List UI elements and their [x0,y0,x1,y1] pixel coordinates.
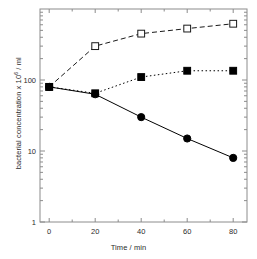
y-tick-label: 10 [28,147,36,156]
data-point-filled-circle [46,83,53,90]
y-tick-label: 1 [32,218,36,227]
y-axis-title-suffix: / ml [14,57,23,72]
data-point-filled-circle [230,154,237,161]
data-point-open-square [230,20,237,27]
data-point-filled-square [230,67,237,74]
data-point-filled-square [138,74,145,81]
chart-canvas: 020406080110100 [0,0,257,259]
data-point-filled-circle [92,91,99,98]
x-tick-label: 40 [137,227,145,236]
x-axis-title: Time / min [0,243,257,252]
data-point-open-square [184,25,191,32]
y-axis-title: bacterial concentration x 106 / ml [13,43,24,183]
y-tick-label: 100 [23,76,36,85]
series-line-filled-circles-solid [49,87,233,158]
figure-container: 020406080110100 bacterial concentration … [0,0,257,259]
x-tick-label: 0 [47,227,51,236]
x-tick-label: 80 [229,227,237,236]
data-point-open-square [92,43,99,50]
data-point-filled-circle [138,114,145,121]
x-tick-label: 60 [183,227,191,236]
y-axis-title-exponent: 6 [13,72,19,75]
data-point-filled-square [184,67,191,74]
x-tick-label: 20 [91,227,99,236]
data-point-filled-circle [184,135,191,142]
y-axis-title-prefix: bacterial concentration x 10 [14,75,23,170]
data-point-open-square [138,30,145,37]
